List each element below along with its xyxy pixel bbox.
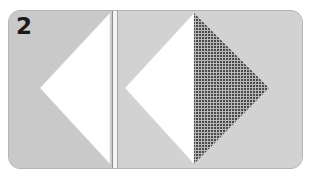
checkered-triangle xyxy=(194,13,269,164)
diagram-shapes xyxy=(0,0,309,176)
left-white-triangle xyxy=(40,13,110,164)
right-white-triangle xyxy=(125,13,194,164)
